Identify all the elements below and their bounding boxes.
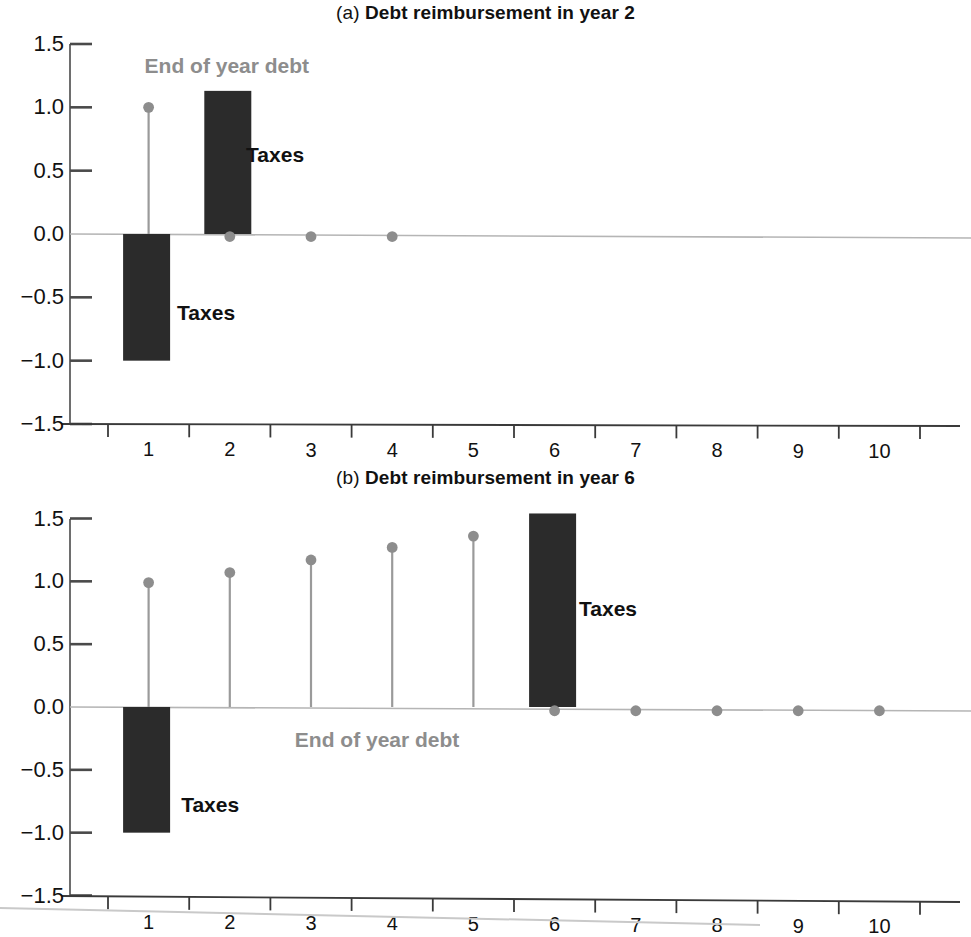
data-point-marker [387, 542, 398, 553]
data-point-marker [143, 102, 154, 113]
y-tick-label: 1.5 [2, 508, 64, 530]
bar [204, 91, 251, 234]
y-tick-label: −1.5 [2, 885, 64, 907]
panel-a-plot-area: 1.51.00.50.0−0.5−1.0−1.512345678910End o… [0, 0, 971, 470]
y-tick-label: −1.5 [2, 413, 64, 435]
data-point-marker [143, 577, 154, 588]
data-point-marker [874, 705, 885, 716]
chart-panel-b: (b) Debt reimbursement in year 6 1.51.00… [0, 465, 971, 937]
data-point-marker [793, 705, 804, 716]
data-point-marker [468, 531, 479, 542]
x-tick-label: 1 [119, 439, 179, 459]
x-axis-spine [62, 896, 960, 902]
y-tick-label: −1.0 [2, 822, 64, 844]
bar [123, 707, 170, 833]
bar [529, 513, 576, 707]
x-tick-label: 3 [281, 913, 341, 933]
x-axis-spine [62, 424, 960, 426]
data-point-marker [712, 705, 723, 716]
x-tick-label: 10 [849, 441, 909, 461]
y-tick-label: 1.0 [2, 570, 64, 592]
y-tick-label: 1.0 [2, 96, 64, 118]
x-tick-label: 1 [119, 912, 179, 932]
x-tick-label: 6 [525, 440, 585, 460]
y-tick-label: 0.5 [2, 633, 64, 655]
x-tick-label: 9 [768, 441, 828, 461]
annotation-end-of-year-debt: End of year debt [145, 55, 310, 76]
annotation-taxes: Taxes [579, 598, 637, 619]
x-tick-label: 2 [200, 439, 260, 459]
x-tick-label: 3 [281, 440, 341, 460]
x-tick-label: 2 [200, 912, 260, 932]
data-point-marker [306, 555, 317, 566]
x-tick-label: 8 [687, 915, 747, 935]
zero-baseline [70, 707, 971, 711]
annotation-end-of-year-debt: End of year debt [295, 729, 460, 750]
y-tick-label: −0.5 [2, 286, 64, 308]
bar [123, 234, 170, 361]
x-tick-label: 9 [768, 916, 828, 936]
annotation-taxes: Taxes [246, 144, 304, 165]
data-point-marker [224, 567, 235, 578]
data-point-marker [630, 705, 641, 716]
x-tick-label: 4 [362, 913, 422, 933]
y-tick-label: 0.0 [2, 223, 64, 245]
annotation-taxes: Taxes [181, 794, 239, 815]
x-tick-label: 10 [849, 916, 909, 936]
data-point-marker [224, 231, 235, 242]
panel-b-plot-area: 1.51.00.50.0−0.5−1.0−1.512345678910Taxes… [0, 465, 971, 937]
chart-panel-a: (a) Debt reimbursement in year 2 1.51.00… [0, 0, 971, 470]
y-tick-label: 1.5 [2, 33, 64, 55]
x-tick-label: 8 [687, 440, 747, 460]
annotation-taxes: Taxes [177, 302, 235, 323]
data-point-marker [549, 705, 560, 716]
y-tick-label: −0.5 [2, 759, 64, 781]
data-point-marker [387, 231, 398, 242]
y-tick-label: −1.0 [2, 350, 64, 372]
zero-baseline [70, 234, 971, 238]
y-tick-label: 0.5 [2, 160, 64, 182]
x-tick-label: 6 [525, 914, 585, 934]
data-point-marker [306, 231, 317, 242]
x-tick-label: 4 [362, 440, 422, 460]
x-tick-label: 7 [606, 440, 666, 460]
x-tick-label: 5 [443, 914, 503, 934]
x-tick-label: 7 [606, 915, 666, 935]
y-tick-label: 0.0 [2, 696, 64, 718]
x-tick-label: 5 [443, 440, 503, 460]
